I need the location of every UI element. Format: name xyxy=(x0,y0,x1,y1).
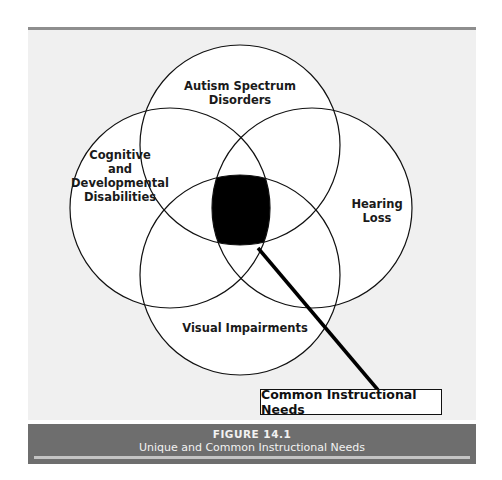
label-line: Loss xyxy=(342,211,412,225)
common-needs-callout: Common Instructional Needs xyxy=(260,389,442,415)
label-autism: Autism Spectrum Disorders xyxy=(170,79,310,107)
label-line: Developmental xyxy=(66,176,174,190)
label-line: Disabilities xyxy=(66,190,174,204)
label-line: Visual Impairments xyxy=(180,321,310,335)
label-cognitive: Cognitive and Developmental Disabilities xyxy=(66,148,174,204)
label-line: Disorders xyxy=(170,93,310,107)
figure-number: FIGURE 14.1 xyxy=(28,428,476,441)
figure-caption: FIGURE 14.1 Unique and Common Instructio… xyxy=(28,424,476,464)
callout-text: Common Instructional Needs xyxy=(261,387,441,417)
label-hearing: Hearing Loss xyxy=(342,197,412,225)
caption-rule xyxy=(34,456,470,459)
label-line: Autism Spectrum xyxy=(170,79,310,93)
label-line: Cognitive xyxy=(66,148,174,162)
label-line: Hearing xyxy=(342,197,412,211)
figure-title: Unique and Common Instructional Needs xyxy=(28,441,476,455)
label-visual: Visual Impairments xyxy=(180,321,310,335)
label-line: and xyxy=(66,162,174,176)
